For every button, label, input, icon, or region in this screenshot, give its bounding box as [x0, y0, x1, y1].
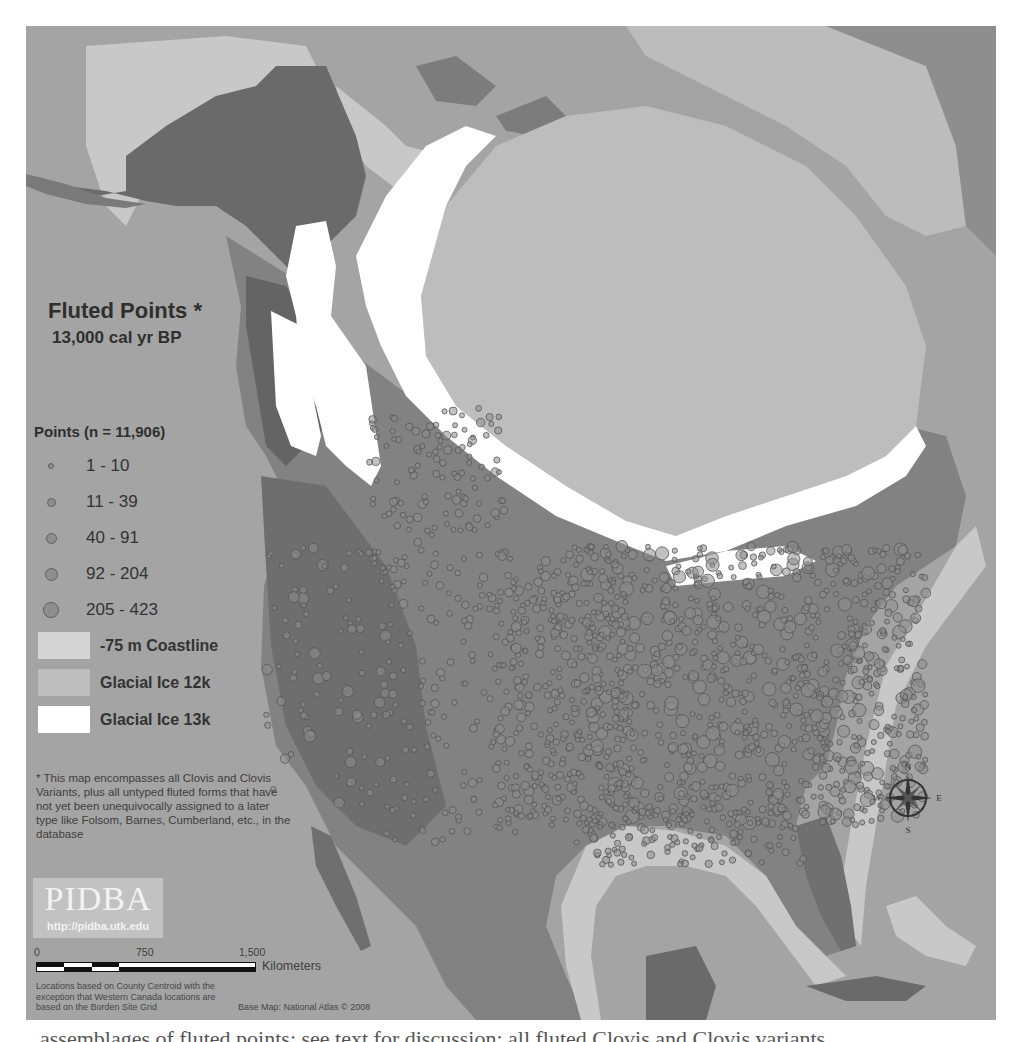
ice-13k-swatch — [38, 706, 90, 733]
svg-text:N: N — [905, 762, 912, 772]
map-title: Fluted Points * — [48, 298, 202, 324]
svg-text:W: W — [873, 793, 882, 803]
fluted-points-map: Fluted Points * 13,000 cal yr BP Points … — [26, 26, 996, 1020]
point-symbol-icon — [48, 463, 54, 469]
point-symbol-icon — [43, 602, 59, 618]
legend-point-class: 1 - 10 — [26, 454, 129, 478]
point-symbol-icon — [47, 498, 56, 507]
pidba-logo: PIDBA http://pidba.utk.edu — [33, 878, 163, 938]
scale-unit: Kilometers — [262, 959, 321, 973]
pidba-logo-text: PIDBA — [33, 880, 163, 918]
map-footnote: * This map encompasses all Clovis and Cl… — [36, 771, 291, 841]
location-note: Locations based on County Centroid with … — [36, 981, 236, 1013]
pidba-url[interactable]: http://pidba.utk.edu — [33, 920, 163, 932]
compass-rose-icon: N S W E — [872, 762, 944, 834]
point-symbol-icon — [45, 568, 58, 581]
base-map — [26, 26, 996, 1020]
map-subtitle: 13,000 cal yr BP — [52, 328, 181, 348]
legend-points-title: Points (n = 11,906) — [34, 423, 165, 440]
svg-text:S: S — [905, 825, 910, 834]
legend-area-ice-13k: Glacial Ice 13k — [38, 706, 210, 733]
legend-point-class: 40 - 91 — [26, 526, 139, 550]
caribbean-shelf — [886, 896, 976, 966]
coastline-swatch — [38, 632, 90, 659]
svg-text:E: E — [936, 793, 942, 803]
legend-area-ice-12k: Glacial Ice 12k — [38, 669, 210, 696]
document-caption-fragment: assemblages of fluted points; see text f… — [40, 1024, 980, 1042]
ice-12k-swatch — [38, 669, 90, 696]
legend-area-coastline: -75 m Coastline — [38, 632, 218, 659]
yucatan — [646, 946, 716, 1020]
base-map-credit: Base Map: National Atlas © 2008 — [238, 1002, 370, 1012]
legend-point-class: 11 - 39 — [26, 490, 138, 514]
point-symbol-icon — [46, 533, 57, 544]
arctic-islands — [416, 56, 566, 136]
scale-bar-graphic — [36, 962, 256, 972]
legend-point-class: 205 - 423 — [26, 598, 158, 622]
legend-point-class: 92 - 204 — [26, 562, 148, 586]
